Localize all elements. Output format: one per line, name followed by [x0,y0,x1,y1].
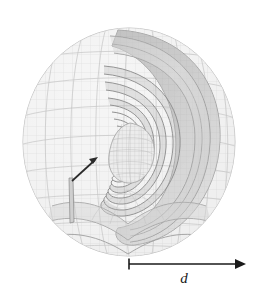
dimension-arrow: d [129,259,246,287]
dimension-arrow-head [235,259,246,269]
dimension-label: d [180,270,188,286]
figure-container: d [0,0,263,293]
left-cut-sliver [69,178,74,223]
nested-shell-figure: d [0,0,263,293]
